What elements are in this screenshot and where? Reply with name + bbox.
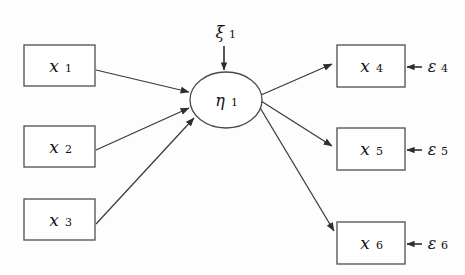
node-x1-base: x bbox=[49, 56, 59, 76]
label-e6-base: ε bbox=[428, 234, 437, 253]
label-xi1-subscript: 1 bbox=[229, 28, 236, 41]
edge-eta1-to-x4 bbox=[261, 64, 332, 95]
node-x3-box bbox=[24, 199, 95, 240]
node-x3-base: x bbox=[49, 210, 59, 230]
node-x3-subscript: 3 bbox=[65, 216, 72, 229]
node-x5-box bbox=[337, 128, 405, 170]
node-x3[interactable]: x 3 bbox=[24, 199, 95, 240]
label-e4-base: ε bbox=[428, 57, 437, 76]
node-x1-box bbox=[24, 45, 95, 86]
node-x2[interactable]: x 2 bbox=[24, 126, 95, 167]
path-diagram-canvas: x 1 x 2 x 3 η 1 ξ 1 x 4 bbox=[0, 0, 465, 275]
label-e4-subscript: 4 bbox=[441, 62, 448, 75]
label-e6-subscript: 6 bbox=[441, 239, 448, 252]
node-x4[interactable]: x 4 bbox=[337, 45, 405, 87]
node-x6[interactable]: x 6 bbox=[337, 222, 405, 264]
node-eta1-latent[interactable]: η 1 bbox=[190, 72, 262, 128]
node-x6-box bbox=[337, 222, 405, 264]
node-x6-base: x bbox=[360, 233, 370, 253]
node-x1[interactable]: x 1 bbox=[24, 45, 95, 86]
label-e5-base: ε bbox=[428, 140, 437, 159]
path-diagram-svg: x 1 x 2 x 3 η 1 ξ 1 x 4 bbox=[0, 0, 465, 275]
edge-x1-to-eta1 bbox=[96, 70, 189, 92]
label-xi1-base: ξ bbox=[216, 23, 226, 42]
node-eta1-subscript: 1 bbox=[231, 96, 238, 109]
node-eta1-base: η bbox=[215, 91, 225, 110]
label-xi1-disturbance: ξ 1 bbox=[216, 23, 236, 42]
node-x4-box bbox=[337, 45, 405, 87]
node-x2-subscript: 2 bbox=[65, 143, 72, 156]
label-e6-error: ε 6 bbox=[428, 234, 448, 253]
node-x5-base: x bbox=[360, 139, 370, 159]
node-x2-box bbox=[24, 126, 95, 167]
node-x4-base: x bbox=[360, 56, 370, 76]
label-e5-error: ε 5 bbox=[428, 140, 448, 159]
node-x1-subscript: 1 bbox=[65, 62, 72, 75]
edge-eta1-to-x5 bbox=[261, 101, 332, 146]
node-x4-subscript: 4 bbox=[376, 62, 383, 75]
label-e5-subscript: 5 bbox=[441, 145, 448, 158]
node-eta1-ellipse bbox=[190, 72, 262, 128]
edge-eta1-to-x6 bbox=[259, 106, 334, 231]
edge-x3-to-eta1 bbox=[96, 118, 194, 224]
node-x2-base: x bbox=[49, 137, 59, 157]
node-x5-subscript: 5 bbox=[376, 145, 383, 158]
node-x5[interactable]: x 5 bbox=[337, 128, 405, 170]
node-x6-subscript: 6 bbox=[376, 239, 383, 252]
edge-x2-to-eta1 bbox=[96, 108, 189, 150]
label-e4-error: ε 4 bbox=[428, 57, 448, 76]
